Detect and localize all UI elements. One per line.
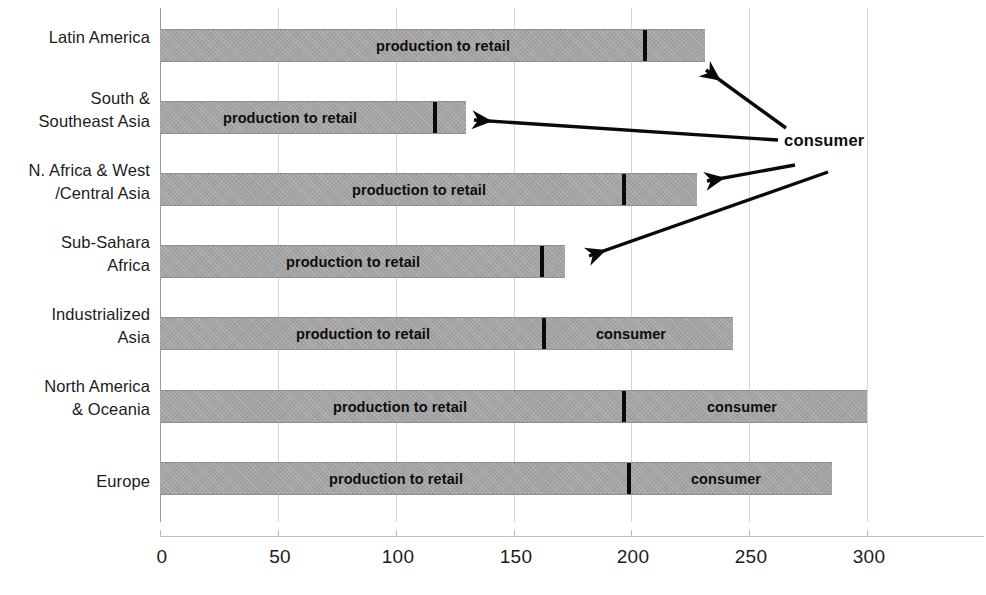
bar-label-consumer: consumer	[691, 471, 761, 487]
x-tick-200	[631, 530, 632, 537]
bar-europe: production to retail consumer	[160, 462, 832, 495]
bar-south-southeast-asia: production to retail	[160, 101, 466, 134]
bar-sub-sahara-africa: production to retail	[160, 245, 565, 278]
marker-n-africa-west-central-asia	[622, 174, 626, 205]
bar-label-production-to-retail: production to retail	[286, 254, 420, 270]
x-axis-line	[160, 536, 984, 537]
bar-north-america-oceania: production to retail consumer	[160, 390, 867, 423]
bar-label-production-to-retail: production to retail	[329, 471, 463, 487]
annotation-consumer-label: consumer	[784, 131, 864, 150]
bar-latin-america: production to retail	[160, 29, 705, 62]
bar-label-production-to-retail: production to retail	[352, 182, 486, 198]
x-tick-label-200: 200	[617, 546, 650, 568]
bar-industrialized-asia: production to retail consumer	[160, 317, 733, 350]
category-label-europe: Europe	[96, 470, 150, 493]
x-tick-250	[749, 530, 750, 537]
x-tick-100	[396, 530, 397, 537]
bar-label-production-to-retail: production to retail	[376, 38, 510, 54]
x-tick-label-100: 100	[382, 546, 415, 568]
gridline-200	[631, 8, 632, 522]
category-label-latin-america: Latin America	[49, 26, 150, 49]
marker-south-southeast-asia	[433, 102, 437, 133]
bar-label-production-to-retail: production to retail	[223, 110, 357, 126]
bar-n-africa-west-central-asia: production to retail	[160, 173, 697, 206]
gridline-250	[749, 8, 750, 522]
x-tick-label-150: 150	[500, 546, 533, 568]
x-tick-label-0: 0	[157, 546, 168, 568]
x-tick-label-300: 300	[853, 546, 886, 568]
x-tick-0	[160, 530, 161, 537]
category-label-north-america-oceania: North America & Oceania	[44, 375, 150, 421]
x-tick-150	[514, 530, 515, 537]
category-label-industrialized-asia: Industrialized Asia	[51, 303, 150, 349]
marker-sub-sahara-africa	[540, 246, 544, 277]
x-tick-300	[867, 530, 868, 537]
x-tick-50	[278, 530, 279, 537]
x-tick-label-50: 50	[269, 546, 291, 568]
bar-label-consumer: consumer	[707, 399, 777, 415]
plot-area: production to retail production to retai…	[160, 8, 872, 522]
bar-label-production-to-retail: production to retail	[296, 326, 430, 342]
x-tick-label-250: 250	[735, 546, 768, 568]
marker-europe	[627, 463, 631, 494]
category-label-n-africa-west-central-asia: N. Africa & West /Central Asia	[29, 159, 150, 205]
category-label-south-southeast-asia: South & Southeast Asia	[39, 87, 150, 133]
marker-latin-america	[643, 30, 647, 61]
bar-label-production-to-retail: production to retail	[333, 399, 467, 415]
category-label-sub-sahara-africa: Sub-Sahara Africa	[61, 231, 150, 277]
marker-north-america-oceania	[622, 391, 626, 422]
bar-label-consumer: consumer	[596, 326, 666, 342]
marker-industrialized-asia	[542, 318, 546, 349]
gridline-300	[867, 8, 868, 522]
bar-chart: Latin America South & Southeast Asia N. …	[0, 0, 986, 595]
